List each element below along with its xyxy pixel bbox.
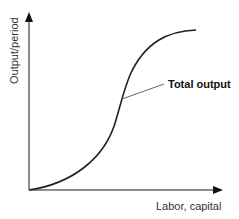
x-axis: [29, 186, 223, 194]
x-axis-label: Labor, capital: [156, 200, 221, 212]
production-function-diagram: [0, 0, 239, 219]
x-axis-arrow-icon: [213, 186, 223, 194]
total-output-label: Total output: [168, 78, 231, 90]
y-axis-arrow-icon: [25, 12, 33, 22]
curve-label-leader-line: [122, 84, 164, 99]
y-axis-label: Output/period: [8, 24, 20, 84]
total-output-curve: [29, 30, 196, 190]
y-axis: [25, 12, 33, 190]
